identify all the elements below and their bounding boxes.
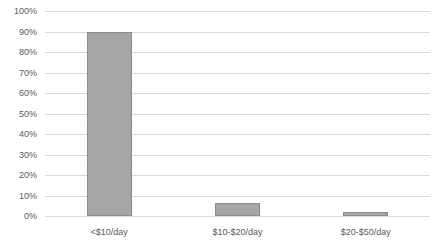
x-axis-tick-label: $20-$50/day [341, 228, 391, 237]
x-axis-tick-label: $10-$20/day [212, 228, 262, 237]
plot-area [45, 11, 430, 216]
bar[interactable] [87, 32, 132, 217]
y-axis-tick-label: 90% [0, 27, 37, 36]
y-axis-tick-label: 40% [0, 130, 37, 139]
bar-slot [302, 11, 430, 216]
bar-chart: 0%10%20%30%40%50%60%70%80%90%100% <$10/d… [0, 0, 440, 248]
bar[interactable] [215, 203, 260, 216]
y-axis-tick-label: 100% [0, 7, 37, 16]
bar-slot [173, 11, 301, 216]
bar-slot [45, 11, 173, 216]
y-axis-tick-label: 30% [0, 150, 37, 159]
y-axis-tick-label: 70% [0, 68, 37, 77]
y-axis-tick-label: 10% [0, 191, 37, 200]
x-axis-tick-label: <$10/day [91, 228, 128, 237]
y-axis-tick-label: 0% [0, 212, 37, 221]
gridline [45, 216, 430, 217]
y-axis-tick-label: 50% [0, 109, 37, 118]
y-axis-tick-label: 20% [0, 171, 37, 180]
y-axis-tick-label: 60% [0, 89, 37, 98]
y-axis-tick-label: 80% [0, 48, 37, 57]
bar[interactable] [343, 212, 388, 216]
